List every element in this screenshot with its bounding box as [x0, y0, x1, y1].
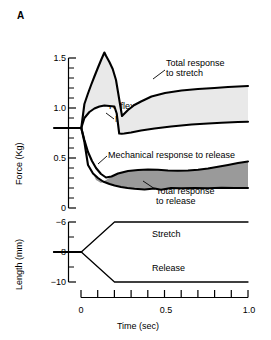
- figure-svg: [0, 0, 271, 340]
- time-axis: [81, 290, 248, 298]
- curve-length-stretch: [54, 222, 248, 252]
- force-axis: [69, 58, 77, 208]
- release-region: [83, 137, 248, 190]
- figure-panel-a: A Force (Kg) Length (mm) 1.5 1.0 0.5 0 −…: [0, 0, 271, 340]
- curve-length-release: [54, 252, 248, 282]
